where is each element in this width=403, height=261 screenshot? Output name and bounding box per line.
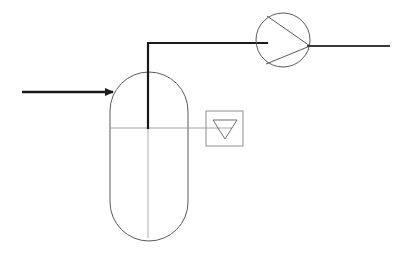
level-indicator-down-triangle-icon bbox=[213, 120, 237, 139]
level-indicator[interactable] bbox=[206, 111, 243, 146]
pump-impeller-triangle bbox=[266, 16, 310, 64]
vertical-vessel[interactable] bbox=[110, 72, 232, 241]
process-diagram-canvas bbox=[0, 0, 403, 261]
overhead-vapor-path bbox=[148, 43, 267, 128]
level-indicator-box bbox=[206, 111, 243, 146]
centrifugal-pump[interactable] bbox=[256, 13, 310, 67]
overhead-vapor-line[interactable] bbox=[148, 43, 267, 128]
pid-drawing bbox=[0, 0, 403, 261]
